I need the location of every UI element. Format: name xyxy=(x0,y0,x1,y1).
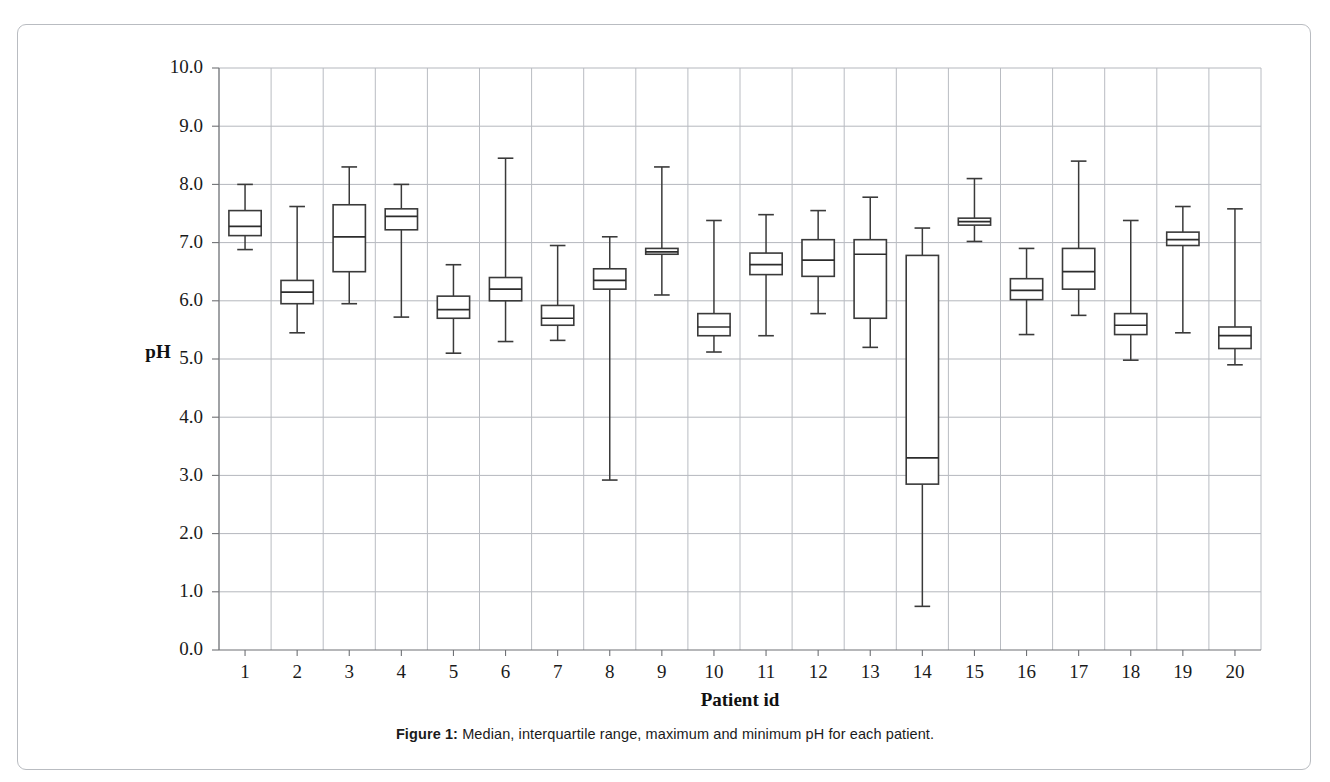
x-tick-label: 18 xyxy=(1121,661,1140,682)
x-tick-label: 3 xyxy=(345,661,355,682)
iqr-box xyxy=(1010,279,1042,300)
figure-caption: Figure 1: Median, interquartile range, m… xyxy=(0,726,1330,742)
x-tick-label: 17 xyxy=(1069,661,1088,682)
x-tick-label: 20 xyxy=(1225,661,1244,682)
x-tick-label: 5 xyxy=(449,661,459,682)
x-tick-label: 15 xyxy=(965,661,984,682)
x-tick-label: 14 xyxy=(913,661,933,682)
iqr-box xyxy=(333,205,365,272)
iqr-box xyxy=(1167,232,1199,245)
x-tick-label: 12 xyxy=(809,661,828,682)
iqr-box xyxy=(1062,248,1094,289)
x-tick-label: 16 xyxy=(1017,661,1036,682)
iqr-box xyxy=(750,253,782,275)
y-tick-label: 7.0 xyxy=(179,231,203,252)
box-plot-item-3 xyxy=(333,167,365,304)
box-plot-item-4 xyxy=(385,184,417,317)
vertical-gridlines xyxy=(219,68,1261,650)
box-plot-item-14 xyxy=(906,228,938,606)
x-axis-title: Patient id xyxy=(701,689,780,710)
box-plot-item-16 xyxy=(1010,248,1042,334)
axis-lines xyxy=(212,68,1261,656)
box-plot-item-8 xyxy=(594,237,626,480)
figure-caption-text: Median, interquartile range, maximum and… xyxy=(458,726,934,742)
x-tick-label: 7 xyxy=(553,661,563,682)
x-tick-label: 13 xyxy=(861,661,880,682)
x-tick-label: 8 xyxy=(605,661,615,682)
iqr-box xyxy=(854,240,886,319)
x-tick-label: 11 xyxy=(757,661,775,682)
x-axis-tick-labels: 1234567891011121314151617181920 xyxy=(240,661,1244,682)
box-plot-item-10 xyxy=(698,220,730,352)
box-plot-item-5 xyxy=(437,265,469,353)
box-plot-item-18 xyxy=(1115,220,1147,360)
y-tick-label: 10.0 xyxy=(170,56,203,77)
box-plot-item-9 xyxy=(646,167,678,295)
iqr-box xyxy=(802,240,834,277)
iqr-box xyxy=(385,209,417,230)
box-plot-item-11 xyxy=(750,215,782,336)
box-plot-item-15 xyxy=(958,179,990,242)
x-tick-label: 4 xyxy=(397,661,407,682)
box-plot-item-12 xyxy=(802,211,834,314)
box-plot-item-13 xyxy=(854,197,886,347)
x-tick-label: 9 xyxy=(657,661,667,682)
iqr-box xyxy=(437,296,469,318)
iqr-box xyxy=(541,305,573,325)
box-plot-item-19 xyxy=(1167,207,1199,333)
iqr-box xyxy=(1115,314,1147,335)
box-plot-item-2 xyxy=(281,207,313,333)
iqr-box xyxy=(1219,327,1251,349)
x-tick-label: 1 xyxy=(240,661,250,682)
chart-svg: 0.01.02.03.04.05.06.07.08.09.010.0 12345… xyxy=(0,0,1330,782)
y-tick-label: 3.0 xyxy=(179,464,203,485)
box-plot-chart: 0.01.02.03.04.05.06.07.08.09.010.0 12345… xyxy=(0,0,1330,782)
x-tick-label: 2 xyxy=(292,661,302,682)
box-plot-item-6 xyxy=(489,158,521,341)
box-plot-item-20 xyxy=(1219,209,1251,365)
y-tick-label: 4.0 xyxy=(179,406,203,427)
y-axis-title: pH xyxy=(145,341,171,362)
y-tick-label: 8.0 xyxy=(179,173,203,194)
y-tick-label: 1.0 xyxy=(179,580,203,601)
iqr-box xyxy=(906,255,938,484)
box-plot-item-7 xyxy=(541,246,573,341)
y-tick-label: 9.0 xyxy=(179,115,203,136)
iqr-box xyxy=(594,269,626,289)
figure-caption-label: Figure 1: xyxy=(396,726,458,742)
x-tick-label: 6 xyxy=(501,661,511,682)
iqr-box xyxy=(229,211,261,236)
iqr-box xyxy=(698,314,730,336)
y-axis-tick-labels: 0.01.02.03.04.05.06.07.08.09.010.0 xyxy=(170,56,203,659)
x-tick-label: 19 xyxy=(1173,661,1192,682)
y-tick-label: 6.0 xyxy=(179,289,203,310)
y-tick-label: 2.0 xyxy=(179,522,203,543)
x-tick-label: 10 xyxy=(704,661,723,682)
box-plot-item-1 xyxy=(229,184,261,249)
y-tick-label: 5.0 xyxy=(179,347,203,368)
y-tick-label: 0.0 xyxy=(179,638,203,659)
